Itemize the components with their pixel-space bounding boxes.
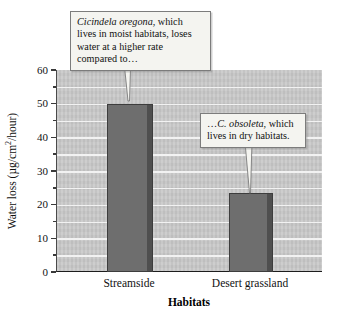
gridline: [57, 104, 322, 106]
gridline: [57, 205, 322, 207]
callout-cicindela-oregona: Cicindela oregona, which lives in moist …: [70, 11, 211, 71]
x-axis-title: Habitats: [56, 296, 322, 308]
gridline: [57, 188, 322, 190]
plot-area: [56, 70, 322, 272]
y-tick-label: 40: [22, 132, 48, 143]
x-tick-label-desert-grassland: Desert grassland: [190, 277, 310, 289]
y-tick-mark-minor: [53, 221, 57, 223]
y-tick-mark-minor: [53, 254, 57, 256]
y-tick-label: 50: [22, 98, 48, 109]
bar-shading: [267, 194, 272, 271]
gridline: [57, 238, 322, 240]
callout-c-obsoleta: …C. obsoleta, which lives in dry habitat…: [200, 113, 306, 148]
y-tick-label: 60: [22, 65, 48, 76]
y-tick-mark-major: [51, 137, 56, 139]
bar-streamside: [107, 104, 153, 272]
y-tick-mark-major: [51, 238, 56, 240]
y-tick-mark-major: [51, 103, 56, 105]
y-axis-title-pre: Water loss (µg/cm: [6, 145, 18, 229]
y-tick-mark-major: [51, 170, 56, 172]
y-tick-label: 0: [22, 267, 48, 278]
y-tick-mark-minor: [53, 187, 57, 189]
callout-2-species-name: C. obsoleta: [217, 118, 263, 129]
gridline: [57, 154, 322, 156]
y-tick-mark-minor: [53, 86, 57, 88]
y-axis-title-exponent: 2: [4, 141, 13, 145]
y-tick-mark-major: [51, 204, 56, 206]
callout-2-prefix: …: [207, 118, 217, 129]
callout-1-species-name: Cicindela oregona: [77, 16, 153, 27]
y-axis-title: Water loss (µg/cm2/hour): [0, 70, 22, 272]
y-tick-label: 10: [22, 233, 48, 244]
gridline: [57, 222, 322, 224]
gridline: [57, 171, 322, 173]
y-tick-label: 20: [22, 199, 48, 210]
y-tick-mark-major: [51, 271, 56, 273]
y-axis-title-post: /hour): [6, 113, 18, 141]
y-tick-mark-minor: [53, 153, 57, 155]
bar-shading: [147, 105, 152, 271]
gridline: [57, 255, 322, 257]
y-tick-mark-minor: [53, 120, 57, 122]
x-tick-label-streamside: Streamside: [69, 277, 189, 289]
gridline: [57, 87, 322, 89]
y-tick-label: 30: [22, 166, 48, 177]
water-loss-bar-chart: 0102030405060 Water loss (µg/cm2/hour) S…: [0, 0, 344, 317]
bar-desert-grassland: [229, 193, 273, 272]
y-tick-mark-major: [51, 69, 56, 71]
